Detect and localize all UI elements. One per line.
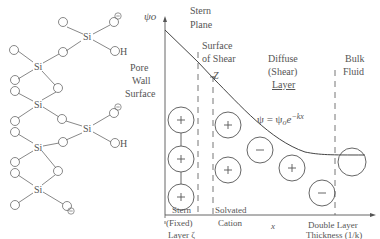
double-layer-thickness-label: Double Layer: [308, 220, 358, 230]
solvated-cation-label: Cation: [218, 218, 242, 228]
electric-double-layer-diagram: Si Si Si Si Si Si H H ψo Ste: [0, 0, 380, 239]
x-axis-label: x: [270, 221, 275, 231]
stern-plane-label: Plane: [190, 19, 213, 30]
stern-layer-label: Layer ζ: [168, 230, 195, 239]
bulk-fluid-label: Fluid: [343, 66, 364, 77]
solvated-cation-label: Solvated: [215, 205, 247, 215]
si-atom-label: Si: [34, 142, 43, 153]
si-atom-label: Si: [83, 123, 92, 134]
pore-wall-surface-label: Wall: [132, 75, 151, 86]
surface-of-shear-label: Surface: [202, 40, 233, 51]
potential-equation: ψ = ψoe−kx: [257, 112, 304, 127]
pore-wall-surface-label: Surface: [125, 88, 156, 99]
y-axis-label: ψo: [144, 10, 157, 22]
silica-pore-wall-structure: [10, 18, 120, 211]
pore-wall-surface-label: Pore: [130, 62, 149, 73]
hydroxyl-h-label: H: [120, 46, 127, 57]
diffuse-layer-label: Diffuse: [268, 53, 298, 64]
hydroxyl-h-label: H: [120, 138, 127, 149]
stern-layer-label: (Fixed): [166, 218, 193, 228]
diffuse-layer-label: Layer: [272, 79, 296, 90]
neutral-molecule-icon: [338, 148, 366, 176]
bulk-fluid-label: Bulk: [345, 53, 364, 64]
negative-charge-icon: [68, 13, 121, 214]
surface-of-shear-label: of Shear: [202, 53, 236, 64]
stern-layer-label: Stern: [172, 205, 191, 215]
zeta-marker-label: Z: [213, 70, 219, 81]
si-atom-label: Si: [34, 61, 43, 72]
stern-plane-label: Stern: [190, 5, 211, 16]
double-layer-thickness-label: Thickness (1/k): [306, 230, 362, 239]
si-atom-label: Si: [83, 31, 92, 42]
si-atom-label: Si: [34, 184, 43, 195]
si-atom-label: Si: [34, 99, 43, 110]
diffuse-layer-label: (Shear): [268, 66, 297, 78]
